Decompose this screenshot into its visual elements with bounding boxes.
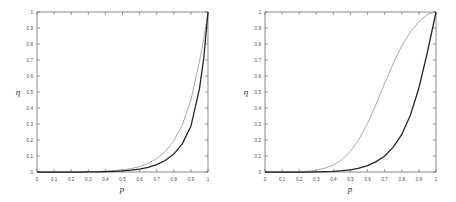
- curve-lower-curve: [37, 12, 208, 172]
- chart-panel-left: 00.10.20.30.40.50.60.70.80.91 00.10.20.3…: [0, 0, 228, 202]
- data-curves-left: [37, 12, 208, 172]
- y-ticklabel: 0.2: [27, 138, 34, 143]
- y-ticklabel: 0.6: [27, 74, 34, 79]
- x-axis-ticks-left: [37, 12, 208, 172]
- chart-panel-right: 00.10.20.30.40.50.60.70.80.91 00.10.20.3…: [228, 0, 456, 202]
- y-ticklabel: 0.9: [255, 26, 262, 31]
- x-ticklabel: 0.6: [136, 177, 143, 182]
- x-ticklabel: 0.8: [171, 177, 178, 182]
- x-ticklabel: 1: [207, 177, 210, 182]
- x-ticklabel: 0.9: [416, 177, 423, 182]
- y-ticklabel: 0.9: [27, 26, 34, 31]
- y-ticklabel: 0.3: [255, 122, 262, 127]
- x-ticklabel: 0.6: [364, 177, 371, 182]
- plot-frame-left: [37, 12, 208, 172]
- y-ticklabel: 0.8: [255, 42, 262, 47]
- axis-lines: [37, 12, 208, 172]
- x-ticklabel: 0.1: [51, 177, 58, 182]
- x-axis-label-right: p: [347, 184, 353, 194]
- x-ticklabel: 0.7: [154, 177, 161, 182]
- y-ticklabel: 0.4: [27, 106, 34, 111]
- chart-svg-left: 00.10.20.30.40.50.60.70.80.91 00.10.20.3…: [0, 0, 228, 202]
- x-ticklabel: 0.8: [399, 177, 406, 182]
- x-ticklabel: 0.5: [347, 177, 354, 182]
- x-ticklabel: 0.3: [313, 177, 320, 182]
- y-axis-label-left: η: [16, 87, 21, 97]
- y-ticklabel: 0.1: [255, 154, 262, 159]
- x-ticklabel: 0.4: [330, 177, 337, 182]
- y-axis-ticks-right: [265, 12, 436, 172]
- plot-box-edges: [37, 12, 208, 172]
- y-axis-label-right: η: [244, 87, 249, 97]
- y-ticklabel: 0.8: [27, 42, 34, 47]
- y-axis-ticklabels-right: 00.10.20.30.40.50.60.70.80.91: [255, 10, 262, 175]
- curve-upper-curve: [265, 12, 436, 172]
- x-ticklabel: 0.4: [102, 177, 109, 182]
- y-ticklabel: 0.3: [27, 122, 34, 127]
- figure-container: 00.10.20.30.40.50.60.70.80.91 00.10.20.3…: [0, 0, 456, 202]
- y-ticklabel: 0.7: [27, 58, 34, 63]
- x-ticklabel: 0.9: [188, 177, 195, 182]
- y-ticklabel: 0.4: [255, 106, 262, 111]
- y-ticklabel: 1: [30, 10, 33, 15]
- x-axis-ticks-right: [265, 12, 436, 172]
- x-axis-label-left: p: [119, 184, 125, 194]
- x-ticklabel: 0: [264, 177, 267, 182]
- curve-upper-curve: [37, 12, 208, 172]
- x-ticklabel: 0.2: [68, 177, 75, 182]
- y-ticklabel: 0.6: [255, 74, 262, 79]
- y-ticklabel: 0.2: [255, 138, 262, 143]
- x-ticklabel: 1: [435, 177, 438, 182]
- axis-lines: [265, 12, 436, 172]
- x-ticklabel: 0.2: [296, 177, 303, 182]
- curve-lower-curve: [265, 12, 436, 172]
- data-curves-right: [265, 12, 436, 172]
- x-ticklabel: 0.5: [119, 177, 126, 182]
- x-ticklabel: 0.3: [85, 177, 92, 182]
- y-ticklabel: 0.5: [255, 90, 262, 95]
- x-ticklabel: 0: [36, 177, 39, 182]
- x-ticklabel: 0.1: [279, 177, 286, 182]
- y-ticklabel: 0.7: [255, 58, 262, 63]
- plot-frame-right: [265, 12, 436, 172]
- x-axis-ticklabels-right: 00.10.20.30.40.50.60.70.80.91: [264, 177, 438, 182]
- y-axis-ticks-left: [37, 12, 208, 172]
- chart-svg-right: 00.10.20.30.40.50.60.70.80.91 00.10.20.3…: [228, 0, 456, 202]
- y-ticklabel: 0: [30, 170, 33, 175]
- y-ticklabel: 1: [258, 10, 261, 15]
- y-ticklabel: 0: [258, 170, 261, 175]
- y-ticklabel: 0.1: [27, 154, 34, 159]
- y-axis-ticklabels-left: 00.10.20.30.40.50.60.70.80.91: [27, 10, 34, 175]
- plot-box-edges: [265, 12, 436, 172]
- x-axis-ticklabels-left: 00.10.20.30.40.50.60.70.80.91: [36, 177, 210, 182]
- y-ticklabel: 0.5: [27, 90, 34, 95]
- x-ticklabel: 0.7: [382, 177, 389, 182]
